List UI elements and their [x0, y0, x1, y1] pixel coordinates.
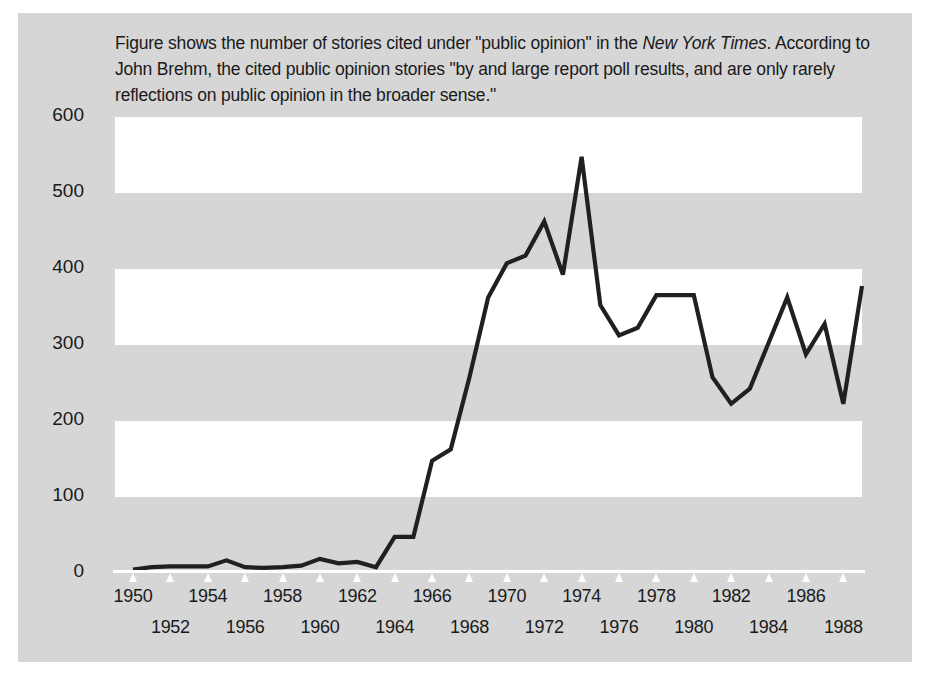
x-tick-mark — [353, 573, 361, 582]
x-tick-mark — [503, 573, 511, 582]
x-tick-label: 1976 — [600, 617, 639, 638]
x-tick-label: 1972 — [525, 617, 564, 638]
x-tick-label: 1974 — [562, 586, 601, 607]
x-tick-mark — [690, 573, 698, 582]
x-tick-label: 1960 — [301, 617, 340, 638]
x-tick-mark — [465, 573, 473, 582]
x-tick-mark — [540, 573, 548, 582]
x-tick-label: 1966 — [413, 586, 452, 607]
x-tick-mark — [316, 573, 324, 582]
x-tick-label: 1988 — [824, 617, 863, 638]
x-tick-mark — [765, 573, 773, 582]
line-chart: 6005004003002001000 19501954195819621966… — [18, 13, 912, 662]
x-tick-mark — [241, 573, 249, 582]
x-tick-label: 1956 — [226, 617, 265, 638]
x-tick-label: 1982 — [712, 586, 751, 607]
x-tick-label: 1950 — [114, 586, 153, 607]
x-tick-mark — [802, 573, 810, 582]
x-tick-mark — [391, 573, 399, 582]
x-tick-label: 1984 — [749, 617, 788, 638]
data-series-line — [18, 13, 912, 662]
figure-panel: Figure shows the number of stories cited… — [18, 13, 912, 662]
x-tick-mark — [279, 573, 287, 582]
x-tick-mark — [578, 573, 586, 582]
x-tick-mark — [652, 573, 660, 582]
x-tick-mark — [129, 573, 137, 582]
x-tick-mark — [204, 573, 212, 582]
x-tick-label: 1980 — [674, 617, 713, 638]
x-tick-label: 1968 — [450, 617, 489, 638]
x-tick-label: 1952 — [151, 617, 190, 638]
x-tick-label: 1964 — [375, 617, 414, 638]
x-tick-label: 1970 — [487, 586, 526, 607]
x-tick-mark — [839, 573, 847, 582]
x-tick-label: 1962 — [338, 586, 377, 607]
x-tick-label: 1978 — [637, 586, 676, 607]
x-tick-mark — [166, 573, 174, 582]
x-tick-label: 1958 — [263, 586, 302, 607]
x-axis-line — [113, 570, 865, 573]
x-tick-mark — [428, 573, 436, 582]
x-tick-mark — [727, 573, 735, 582]
x-tick-label: 1954 — [188, 586, 227, 607]
x-tick-label: 1986 — [787, 586, 826, 607]
x-tick-mark — [615, 573, 623, 582]
